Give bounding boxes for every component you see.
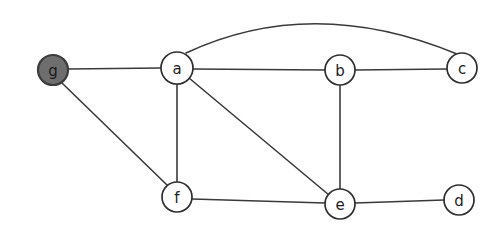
- graph-node-d[interactable]: d: [444, 185, 474, 215]
- node-label-c: c: [458, 60, 466, 78]
- graph-edge-a-e: [189, 78, 329, 195]
- graph-edge-b-c: [355, 69, 447, 70]
- graph-node-a[interactable]: a: [161, 52, 193, 84]
- graph-edge-e-d: [355, 200, 444, 203]
- graph-edge-a-b: [193, 69, 325, 70]
- node-label-e: e: [335, 196, 344, 214]
- graph-diagram: gabcfed: [0, 0, 504, 237]
- graph-canvas: gabcfed: [0, 0, 504, 237]
- node-label-d: d: [454, 192, 464, 210]
- graph-edge-g-a: [68, 68, 161, 69]
- graph-edge-a-c: [186, 24, 457, 54]
- node-label-a: a: [172, 60, 181, 78]
- graph-node-b[interactable]: b: [325, 55, 355, 85]
- node-label-f: f: [174, 189, 180, 207]
- node-label-g: g: [48, 62, 58, 80]
- graph-edge-g-f: [62, 83, 167, 185]
- graph-edge-f-e: [192, 199, 325, 203]
- graph-node-f[interactable]: f: [162, 182, 192, 212]
- graph-node-c[interactable]: c: [447, 53, 477, 83]
- graph-node-e[interactable]: e: [325, 189, 355, 219]
- graph-node-g[interactable]: g: [38, 55, 68, 85]
- node-label-b: b: [335, 62, 345, 80]
- edge-layer: [62, 24, 457, 203]
